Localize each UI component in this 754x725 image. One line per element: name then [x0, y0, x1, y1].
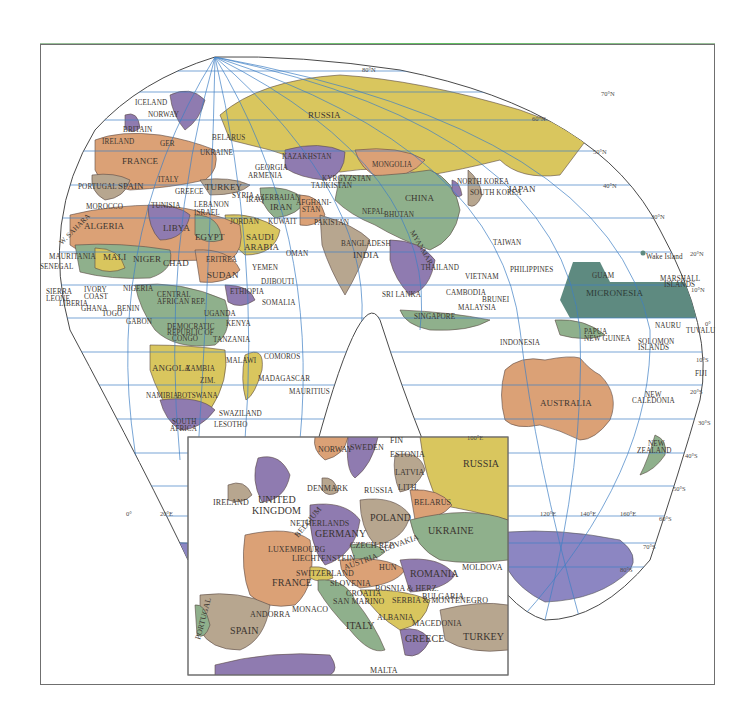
svg-text:ESTONIA: ESTONIA: [390, 450, 425, 459]
svg-text:MOLDOVA: MOLDOVA: [462, 563, 503, 572]
svg-text:ARABIA: ARABIA: [244, 242, 280, 252]
svg-text:INDIA: INDIA: [353, 250, 379, 260]
svg-text:VIETNAM: VIETNAM: [465, 273, 499, 281]
svg-text:50°S: 50°S: [673, 485, 686, 492]
svg-text:CHINA: CHINA: [405, 193, 434, 203]
svg-text:SOMALIA: SOMALIA: [262, 299, 296, 307]
svg-text:GABON: GABON: [126, 318, 153, 326]
iceland: [80, 78, 102, 87]
svg-text:COAST: COAST: [84, 293, 109, 301]
svg-text:TURKEY: TURKEY: [463, 631, 504, 642]
svg-text:ERITREA: ERITREA: [206, 256, 238, 264]
svg-text:BRITAIN: BRITAIN: [123, 126, 153, 134]
svg-text:ZEALAND: ZEALAND: [637, 447, 672, 455]
svg-text:GERMANY: GERMANY: [315, 528, 366, 539]
wake-island-marker: [641, 251, 646, 256]
svg-text:10°S: 10°S: [696, 356, 709, 363]
svg-text:MONGOLIA: MONGOLIA: [372, 161, 413, 169]
svg-text:FIN: FIN: [390, 436, 403, 445]
svg-text:COMOROS: COMOROS: [264, 353, 300, 361]
svg-text:IRELAND: IRELAND: [213, 498, 249, 507]
svg-text:CHAD: CHAD: [163, 258, 189, 268]
svg-text:EGYPT: EGYPT: [195, 232, 225, 242]
svg-text:ANDORRA: ANDORRA: [250, 610, 290, 619]
svg-text:20°E: 20°E: [160, 510, 173, 517]
svg-text:70°S: 70°S: [643, 543, 656, 550]
svg-text:GREECE: GREECE: [175, 188, 204, 196]
svg-text:MAURITIUS: MAURITIUS: [289, 388, 330, 396]
svg-text:INDONESIA: INDONESIA: [500, 339, 541, 347]
svg-text:PAKISTAN: PAKISTAN: [314, 219, 350, 227]
svg-text:ITALY: ITALY: [346, 620, 375, 631]
svg-text:OMAN: OMAN: [286, 250, 309, 258]
svg-text:TANZANIA: TANZANIA: [213, 336, 251, 344]
antarctica-west: [75, 542, 188, 600]
svg-text:AUSTRALIA: AUSTRALIA: [540, 398, 592, 408]
svg-text:LATVIA: LATVIA: [395, 468, 425, 477]
svg-text:ETHIOPIA: ETHIOPIA: [230, 288, 265, 296]
svg-text:FRANCE: FRANCE: [272, 577, 312, 588]
svg-text:ZAMBIA: ZAMBIA: [186, 365, 216, 373]
world-map: 80°N 70°N 60°N 50°N 40°N 30°N 20°N 10°N …: [0, 0, 754, 725]
svg-text:HUN: HUN: [379, 563, 397, 572]
svg-text:MAURITANIA: MAURITANIA: [49, 253, 96, 261]
svg-text:160°E: 160°E: [620, 510, 636, 517]
svg-text:NAMIBIA: NAMIBIA: [146, 392, 179, 400]
svg-text:DJIBOUTI: DJIBOUTI: [261, 278, 295, 286]
svg-text:UGANDA: UGANDA: [204, 310, 236, 318]
svg-text:SPAIN: SPAIN: [230, 625, 258, 636]
svg-text:ZIM.: ZIM.: [200, 377, 215, 385]
svg-text:NORWAY: NORWAY: [148, 111, 180, 119]
svg-text:LESOTHO: LESOTHO: [214, 421, 247, 429]
svg-text:AFRICAN REP.: AFRICAN REP.: [157, 298, 206, 306]
svg-text:TUNISIA: TUNISIA: [151, 202, 181, 210]
svg-text:NIGER: NIGER: [133, 254, 161, 264]
svg-text:ITALY: ITALY: [158, 176, 179, 184]
svg-text:LITH.: LITH.: [398, 483, 419, 492]
svg-text:SWAZILAND: SWAZILAND: [219, 410, 262, 418]
svg-text:UKRAINE: UKRAINE: [200, 149, 234, 157]
svg-text:STAN: STAN: [302, 206, 321, 214]
svg-text:NEW GUINEA: NEW GUINEA: [584, 335, 631, 343]
svg-text:60°S: 60°S: [659, 515, 672, 522]
svg-text:BULGARIA: BULGARIA: [422, 592, 464, 601]
svg-text:ICELAND: ICELAND: [135, 99, 167, 107]
svg-text:RUSSIA: RUSSIA: [308, 110, 341, 120]
svg-text:60°N: 60°N: [532, 115, 546, 122]
svg-text:0°: 0°: [126, 510, 132, 517]
svg-text:ALBANIA: ALBANIA: [377, 613, 414, 622]
svg-text:MALI: MALI: [103, 252, 126, 262]
svg-text:80°S: 80°S: [620, 566, 633, 573]
svg-text:SYRIA: SYRIA: [232, 192, 255, 200]
svg-text:ALGERIA: ALGERIA: [84, 221, 125, 231]
svg-text:140°E: 140°E: [580, 510, 596, 517]
svg-text:ARMENIA: ARMENIA: [248, 172, 283, 180]
svg-text:30°S: 30°S: [698, 419, 711, 426]
svg-text:RUSSIA: RUSSIA: [463, 458, 500, 469]
svg-text:20°N: 20°N: [690, 250, 704, 257]
svg-text:FRANCE: FRANCE: [122, 156, 159, 166]
svg-text:KENYA: KENYA: [226, 320, 252, 328]
svg-text:NORWAY: NORWAY: [318, 445, 353, 454]
svg-text:40°N: 40°N: [603, 182, 617, 189]
svg-text:SAN MARINO: SAN MARINO: [333, 597, 385, 606]
svg-text:MOROCCO: MOROCCO: [86, 203, 123, 211]
svg-text:POLAND: POLAND: [370, 512, 411, 523]
svg-text:BELARUS: BELARUS: [414, 498, 451, 507]
svg-text:MONACO: MONACO: [292, 605, 328, 614]
svg-text:TAJIKISTAN: TAJIKISTAN: [311, 182, 353, 190]
svg-text:SPAIN: SPAIN: [118, 181, 144, 191]
svg-text:PHILIPPINES: PHILIPPINES: [510, 266, 553, 274]
svg-text:BOTSWANA: BOTSWANA: [177, 392, 218, 400]
svg-text:KUWAIT: KUWAIT: [268, 218, 297, 226]
svg-text:BELARUS: BELARUS: [212, 134, 245, 142]
svg-text:YEMEN: YEMEN: [252, 264, 279, 272]
svg-text:NORTH KOREA: NORTH KOREA: [457, 178, 510, 186]
svg-text:80°N: 80°N: [362, 66, 376, 73]
svg-text:KAZAKHSTAN: KAZAKHSTAN: [282, 153, 332, 161]
svg-text:ISRAEL: ISRAEL: [194, 209, 220, 217]
svg-text:BANGLADESH: BANGLADESH: [341, 240, 391, 248]
svg-text:100°E: 100°E: [467, 434, 483, 441]
svg-text:BRUNEI: BRUNEI: [482, 296, 510, 304]
svg-text:NAURU: NAURU: [655, 322, 682, 330]
